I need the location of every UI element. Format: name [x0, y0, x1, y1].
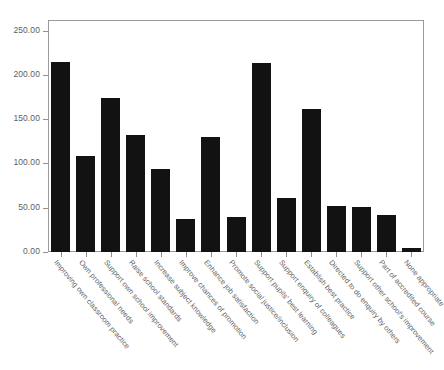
- bar-rect: [51, 62, 70, 252]
- bar-rect: [277, 198, 296, 252]
- bar-rect: [302, 109, 321, 252]
- x-axis-tick-mark: [136, 252, 137, 257]
- x-axis-tick-mark: [111, 252, 112, 257]
- bars-layer: [48, 20, 424, 252]
- bar-rect: [176, 219, 195, 252]
- x-axis-tick-mark: [311, 252, 312, 257]
- x-axis-tick-mark: [411, 252, 412, 257]
- x-axis-tick-mark: [211, 252, 212, 257]
- x-axis-labels: Improving own classroom practiceOwn prof…: [48, 258, 444, 370]
- x-axis-tick-mark: [286, 252, 287, 257]
- x-axis-tick-mark: [336, 252, 337, 257]
- bar-rect: [327, 206, 346, 252]
- bar-rect: [227, 217, 246, 252]
- bar-rect: [352, 207, 371, 252]
- y-axis-tick-label: 250.00: [13, 25, 40, 35]
- y-axis-tick-label: 100.00: [13, 157, 40, 167]
- bar-rect: [252, 63, 271, 252]
- x-axis-tick-mark: [61, 252, 62, 257]
- bar-rect: [201, 137, 220, 252]
- bar-rect: [126, 135, 145, 252]
- y-axis-tick-label: 200.00: [13, 69, 40, 79]
- bar-rect: [76, 156, 95, 252]
- bar-rect: [101, 98, 120, 252]
- x-axis-tick-mark: [386, 252, 387, 257]
- x-axis-tick-mark: [161, 252, 162, 257]
- x-axis-tick-mark: [86, 252, 87, 257]
- y-axis: 0.0050.00100.00150.00200.00250.00: [0, 0, 48, 370]
- x-axis-tick-mark: [236, 252, 237, 257]
- bar-rect: [151, 169, 170, 252]
- x-axis-tick-mark: [186, 252, 187, 257]
- y-axis-tick-label: 0.00: [23, 246, 40, 256]
- y-axis-tick-label: 50.00: [18, 202, 40, 212]
- x-axis-tick-mark: [261, 252, 262, 257]
- bar-rect: [377, 215, 396, 252]
- y-axis-tick-label: 150.00: [13, 113, 40, 123]
- x-axis-tick-mark: [361, 252, 362, 257]
- bar-chart: 0.0050.00100.00150.00200.00250.00 Improv…: [0, 0, 444, 370]
